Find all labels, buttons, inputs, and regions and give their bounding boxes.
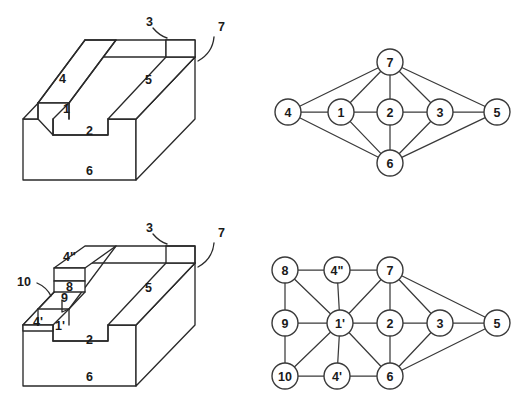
node-label: 6 [387,157,394,171]
node-label: 7 [387,264,394,278]
ref-label-4-top: 4 [59,72,66,86]
node-label: 6 [387,370,394,384]
figure-svg: 3 7 4 5 1 2 6 4123576 [0,0,530,417]
node-label: 3 [437,317,444,331]
right-ridge-outer-face-2 [166,246,195,263]
ref-label-1p: 1' [55,319,65,333]
graph-node-7[interactable]: 7 [377,49,403,75]
node-label: 8 [282,264,289,278]
graph-node-6[interactable]: 6 [377,363,403,389]
node-label: 1' [335,317,345,331]
graph-edge-1-7 [350,71,381,102]
graph-node-7[interactable]: 7 [377,257,403,283]
graph-edge-3-6 [399,332,431,366]
graph-node-8[interactable]: 8 [272,257,298,283]
node-label: 10 [278,370,292,384]
graph-node-6[interactable]: 6 [377,150,403,176]
node-label: 2 [387,317,394,331]
node-label: 3 [437,106,444,120]
graph-edge-4-1 [338,336,340,363]
node-label: 2 [387,106,394,120]
graph-edge-1-7 [349,279,381,313]
ref-label-7-top: 7 [218,20,225,34]
ref-label-4p: 4' [33,315,43,329]
ref-label-7-bottom: 7 [218,226,225,240]
graph-edge-1-6 [350,121,381,153]
graph-edge-3-7 [399,71,431,103]
graph-edge-1-6 [349,332,381,366]
graph-node-5[interactable]: 5 [484,310,510,336]
graph-edge-3-6 [399,121,431,153]
node-label: 9 [282,317,289,331]
graph-edge-4-1 [338,283,340,310]
graph-edge-8-1 [294,279,330,314]
leader-7 [198,37,214,61]
node-label: 5 [494,106,501,120]
graph-node-4[interactable]: 4 [275,99,301,125]
leader-7-bottom [198,243,214,267]
graph-node-9[interactable]: 9 [272,310,298,336]
node-label: 4' [332,370,342,384]
graph-node-3[interactable]: 3 [427,310,453,336]
graph-node-10[interactable]: 10 [272,363,298,389]
ref-label-3-top: 3 [146,15,153,29]
graph-node-4p[interactable]: 4" [324,257,350,283]
node-label: 1 [338,106,345,120]
ref-label-5-bottom: 5 [145,281,152,295]
figure-root: 3 7 4 5 1 2 6 4123576 [0,0,530,417]
ref-label-10: 10 [17,275,31,289]
node-label: 5 [494,317,501,331]
ref-label-3-bottom: 3 [146,221,153,235]
top-left-solid-group: 3 7 4 5 1 2 6 [23,15,225,180]
graph-node-3[interactable]: 3 [427,99,453,125]
node-label: 4 [285,106,292,120]
graph-node-2[interactable]: 2 [377,310,403,336]
ref-label-1-top: 1 [63,102,70,116]
leader-3 [153,28,167,38]
right-ridge-outer-face [166,40,195,57]
bottom-right-graph-group: 84"791'235104'6 [272,257,510,389]
graph-edge-7-3 [399,279,431,313]
graph-node-1p[interactable]: 1' [327,310,353,336]
graph-edge-10-1 [294,332,330,367]
node-label: 7 [387,56,394,70]
node-label: 4" [331,264,344,278]
bottom-left-solid-group: 4" 3 7 8 10 9 5 4' 1' 2 6 [17,221,225,386]
ref-label-9: 9 [61,291,68,305]
ref-label-2-bottom: 2 [86,333,93,347]
leader-3-bottom [153,234,167,244]
graph-node-2[interactable]: 2 [377,99,403,125]
top-right-graph-group: 4123576 [275,49,510,176]
graph-node-5[interactable]: 5 [484,99,510,125]
ref-label-2-top: 2 [86,124,93,138]
ref-label-6-bottom: 6 [86,370,93,384]
ref-label-5-top: 5 [145,73,152,87]
graph-node-1[interactable]: 1 [328,99,354,125]
ref-label-4dq: 4" [63,250,76,264]
ref-label-6-top: 6 [86,164,93,178]
graph-node-4p[interactable]: 4' [324,363,350,389]
leader-10 [37,283,51,296]
